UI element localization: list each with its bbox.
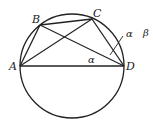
angle-label-alpha-cd: α <box>126 29 133 39</box>
angle-label-beta: β <box>143 28 149 38</box>
geometry-diagram: A B C D α α β <box>0 0 153 125</box>
angle-label-alpha-ad: α <box>88 55 95 65</box>
point-label-c: C <box>93 8 101 19</box>
point-label-d: D <box>126 61 135 72</box>
point-label-b: B <box>32 14 40 25</box>
segment-cd <box>92 19 124 66</box>
point-label-a: A <box>9 61 17 72</box>
